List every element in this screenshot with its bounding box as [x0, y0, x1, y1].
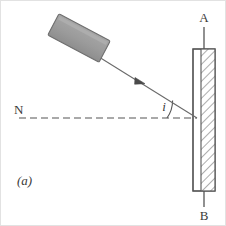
incident-ray-arrowhead [135, 78, 145, 85]
mirror-hatched-backing [201, 49, 215, 191]
optics-reflection-figure: A B N i (a) [0, 0, 226, 226]
label-mirror-top-a: A [199, 10, 209, 25]
label-mirror-bottom-b: B [200, 208, 209, 223]
figure-caption: (a) [17, 173, 32, 188]
label-normal-n: N [14, 102, 24, 117]
light-source-block-body [48, 14, 110, 62]
label-angle-of-incidence-i: i [162, 99, 166, 114]
figure-canvas: A B N i (a) [1, 1, 226, 226]
light-source-block [48, 14, 110, 62]
incident-ray [99, 57, 197, 118]
angle-of-incidence-arc [167, 101, 173, 119]
